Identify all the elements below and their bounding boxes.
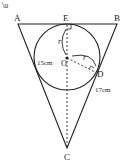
geometry-figure: \o A E B r r 15cm O D 17cm C (0, 0, 128, 167)
corner-mark: \o (2, 1, 8, 10)
label-d: D (97, 69, 104, 79)
label-15cm: 15cm (37, 59, 53, 67)
right-angle-e (67, 25, 71, 29)
dashed-radius-od (67, 58, 95, 72)
label-c: C (64, 152, 70, 162)
label-o: O (61, 59, 67, 68)
right-angle-d (89, 66, 94, 69)
label-e: E (63, 13, 69, 23)
radius-arc-vertical (62, 29, 66, 55)
label-b: B (114, 13, 120, 23)
label-r-diagonal: r (83, 53, 87, 62)
label-a: A (14, 13, 21, 23)
triangle-incircle-diagram: \o A E B r r 15cm O D 17cm C (0, 0, 128, 167)
label-17cm: 17cm (95, 86, 111, 94)
label-r-vertical: r (58, 37, 62, 46)
